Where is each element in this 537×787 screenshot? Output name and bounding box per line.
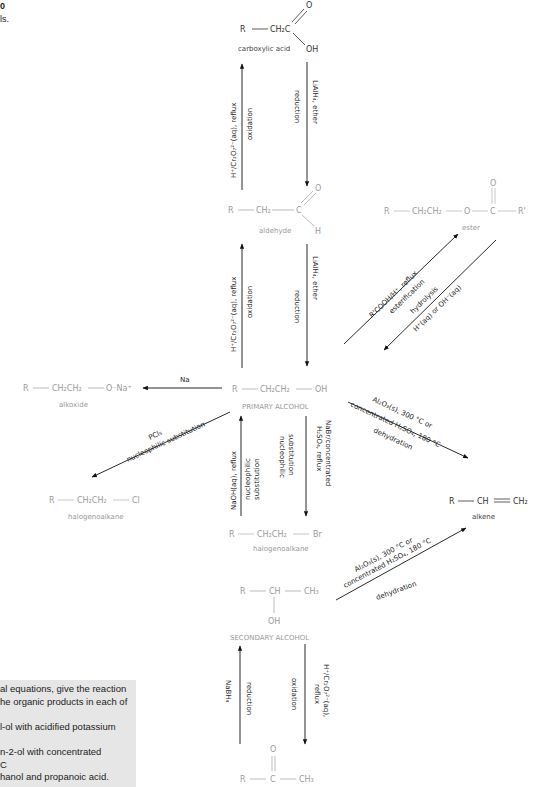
carbon: C xyxy=(296,206,302,215)
compound-carboxylic-acid: R CH₂C O OH carboxylic acid xyxy=(238,1,318,54)
oxygen: O xyxy=(490,179,496,188)
hydroxyl: OH xyxy=(306,45,318,54)
bromine: Br xyxy=(313,530,322,539)
oxygen: O xyxy=(306,1,312,10)
reaction-type-label: substitution xyxy=(287,434,295,475)
compound-ester: R CH₂CH₂ O C O R' ester xyxy=(384,179,526,232)
hydroxyl: OH xyxy=(268,617,280,626)
reagent-label: concentrated H₂SO₄, 180 °C xyxy=(342,537,432,590)
r-group: R xyxy=(229,530,235,539)
hydroxyl: OH xyxy=(315,385,327,394)
question-line: hanol and propanoic acid. xyxy=(0,771,136,784)
reagent-label: NaBH₄ xyxy=(224,680,232,703)
carbon: C xyxy=(270,775,276,784)
r-group: R xyxy=(232,385,238,394)
reagent-label: H⁺/Cr₂O₇²⁻(aq), xyxy=(322,664,330,717)
reaction-type-label: substitution xyxy=(253,459,261,500)
question-line: he organic products in each of xyxy=(0,696,136,709)
r-group: R xyxy=(49,496,55,505)
carbon: C xyxy=(490,207,496,216)
reaction-type-label: nucleophilic substitution xyxy=(125,420,206,463)
alkoxide-ion: O⁻Na⁺ xyxy=(106,384,132,393)
compound-aldehyde: R CH₂ C O H aldehyde xyxy=(228,184,321,236)
ch3: CH₃ xyxy=(299,775,314,784)
r-group: R xyxy=(228,206,234,215)
compound-label: alkene xyxy=(472,513,495,521)
reaction-type-label: nucleophilic xyxy=(278,436,286,478)
r-group: R xyxy=(449,497,455,506)
chain: CH₂CH₂ xyxy=(412,207,442,216)
r-group: R xyxy=(240,25,246,34)
r-group: R xyxy=(384,207,390,216)
question-line: l-ol with acidified potassium xyxy=(0,721,136,734)
hydrogen: H xyxy=(315,227,321,236)
ch: CH xyxy=(269,587,281,596)
compound-label: halogenoalkane xyxy=(68,513,124,521)
ch: CH xyxy=(477,497,489,506)
compound-halogenoalkane-bromide: R CH₂CH₂ Br halogenoalkane xyxy=(229,530,322,553)
chain: CH₂CH₂ xyxy=(77,496,107,505)
ch3: CH₃ xyxy=(304,587,319,596)
r-group: R xyxy=(240,775,246,784)
reagent-label: NaBr/concentrated xyxy=(324,420,332,486)
arrow-hydrolysis xyxy=(384,240,496,350)
question-line: al equations, give the reaction xyxy=(0,683,136,696)
oxygen: O xyxy=(315,184,321,193)
r-group: R xyxy=(240,587,246,596)
chain: CH₂C xyxy=(270,25,291,34)
reagent-label: LiAlH₄, ether xyxy=(311,256,319,300)
chlorine: Cl xyxy=(132,496,140,505)
compound-label: ester xyxy=(462,224,480,232)
reagent-label: LiAlH₄, ether xyxy=(311,80,319,124)
question-line xyxy=(0,708,136,721)
reagent-label: reflux xyxy=(313,684,321,704)
r-group: R xyxy=(23,384,29,393)
reaction-type-label: reduction xyxy=(245,682,253,715)
oxygen: O xyxy=(270,745,276,754)
compound-label: PRIMARY ALCOHOL xyxy=(242,403,309,411)
compound-ketone: O R C CH₃ xyxy=(240,745,314,784)
compound-primary-alcohol: R CH₂CH₂ OH PRIMARY ALCOHOL xyxy=(232,385,327,411)
compound-alkoxide: R CH₂CH₂ O⁻Na⁺ alkoxide xyxy=(23,384,132,409)
question-line: C xyxy=(0,759,136,772)
compound-label: alkoxide xyxy=(59,401,88,409)
compound-label: halogenoalkane xyxy=(253,545,309,553)
compound-halogenoalkane-chloride: R CH₂CH₂ Cl halogenoalkane xyxy=(49,496,140,521)
reaction-type-label: reduction xyxy=(293,90,301,123)
compound-alkene: R CH CH₂ alkene xyxy=(449,497,528,521)
compound-label: carboxylic acid xyxy=(238,45,290,53)
question-box: al equations, give the reaction he organ… xyxy=(0,680,136,787)
compound-label: aldehyde xyxy=(259,227,291,235)
question-line: n-2-ol with concentrated xyxy=(0,746,136,759)
reagent-label: H⁺/Cr₂O₇²⁻(aq), reflux xyxy=(230,277,238,352)
chain: CH₂CH₂ xyxy=(257,530,287,539)
r-prime-group: R' xyxy=(518,207,526,216)
reagent-label: Na xyxy=(180,376,190,384)
chain: CH₂CH₂ xyxy=(52,384,82,393)
compound-label: SECONDARY ALCOHOL xyxy=(230,634,309,642)
reaction-type-label: oxidation xyxy=(246,108,254,140)
ester-oxygen: O xyxy=(464,207,470,216)
reaction-type-label: reduction xyxy=(293,290,301,323)
ch2: CH₂ xyxy=(513,497,528,506)
reaction-type-label: oxidation xyxy=(246,286,254,318)
reaction-type-label: dehydration xyxy=(375,580,418,602)
chain: CH₂CH₂ xyxy=(260,385,290,394)
reaction-type-label: oxidation xyxy=(290,678,298,710)
reagent-label: NaOH(aq), reflux xyxy=(230,451,238,510)
reagent-label: H⁺/Cr₂O₇²⁻(aq), reflux xyxy=(230,103,238,178)
question-line xyxy=(0,733,136,746)
reagent-label: H₂SO₄, reflux xyxy=(315,426,323,471)
chain: CH₂ xyxy=(256,206,271,215)
compound-secondary-alcohol: R CH CH₃ OH SECONDARY ALCOHOL xyxy=(230,587,319,642)
reaction-type-label: nucleophilic xyxy=(244,458,252,500)
